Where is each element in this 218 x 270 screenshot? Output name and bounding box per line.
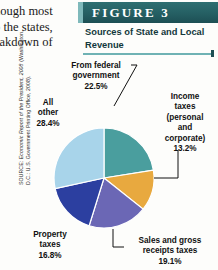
slice-label-income-line5: corporate): [165, 134, 206, 143]
slice-label-income-line1: Income: [171, 92, 200, 101]
slice-label-income-line2: taxes: [175, 102, 196, 111]
slice-label-all-other: All other 28.4%: [22, 98, 74, 129]
body-text-line: o the states,: [0, 20, 86, 36]
slice-label-income-line4: and: [178, 123, 193, 132]
slice-label-property-line1: Property: [33, 230, 67, 239]
source-prefix: SOURCE:: [18, 159, 24, 185]
slice-value-income: 13.2%: [173, 144, 196, 153]
slice-label-federal-line1: From federal: [71, 61, 121, 70]
slice-label-income-line3: (personal: [167, 113, 204, 122]
slice-label-allother-line2: other: [38, 108, 58, 117]
slice-label-sales-line2: receipts taxes: [143, 246, 198, 255]
slice-label-federal-line2: government: [73, 71, 120, 80]
slice-label-allother-line1: All: [43, 98, 53, 107]
slice-value-property: 16.8%: [38, 251, 61, 260]
slice-value-federal: 22.5%: [84, 82, 107, 91]
slice-label-federal: From federal government 22.5%: [60, 61, 132, 92]
slice-label-property-line2: taxes: [40, 240, 61, 249]
body-text-line: eakdown of: [0, 35, 86, 51]
slice-value-allother: 28.4%: [36, 119, 59, 128]
slice-value-sales: 19.1%: [158, 257, 181, 266]
slice-label-property-taxes: Property taxes 16.8%: [24, 230, 76, 261]
slice-label-sales-line1: Sales and gross: [139, 236, 202, 245]
figure-title: Sources of State and Local Revenue: [85, 26, 217, 51]
body-text-line: hough most: [0, 4, 86, 20]
slice-label-sales-taxes: Sales and gross receipts taxes 19.1%: [124, 236, 216, 267]
figure-rule-end-cap: [211, 50, 214, 57]
body-text-fragment: hough most o the states, eakdown of: [0, 4, 86, 51]
figure-divider-rule: [83, 53, 213, 55]
figure-banner-accent-bar: [78, 2, 83, 23]
slice-label-income-taxes: Income taxes (personal and corporate) 13…: [154, 92, 216, 154]
figure-number-label: FIGURE 3: [92, 5, 170, 21]
